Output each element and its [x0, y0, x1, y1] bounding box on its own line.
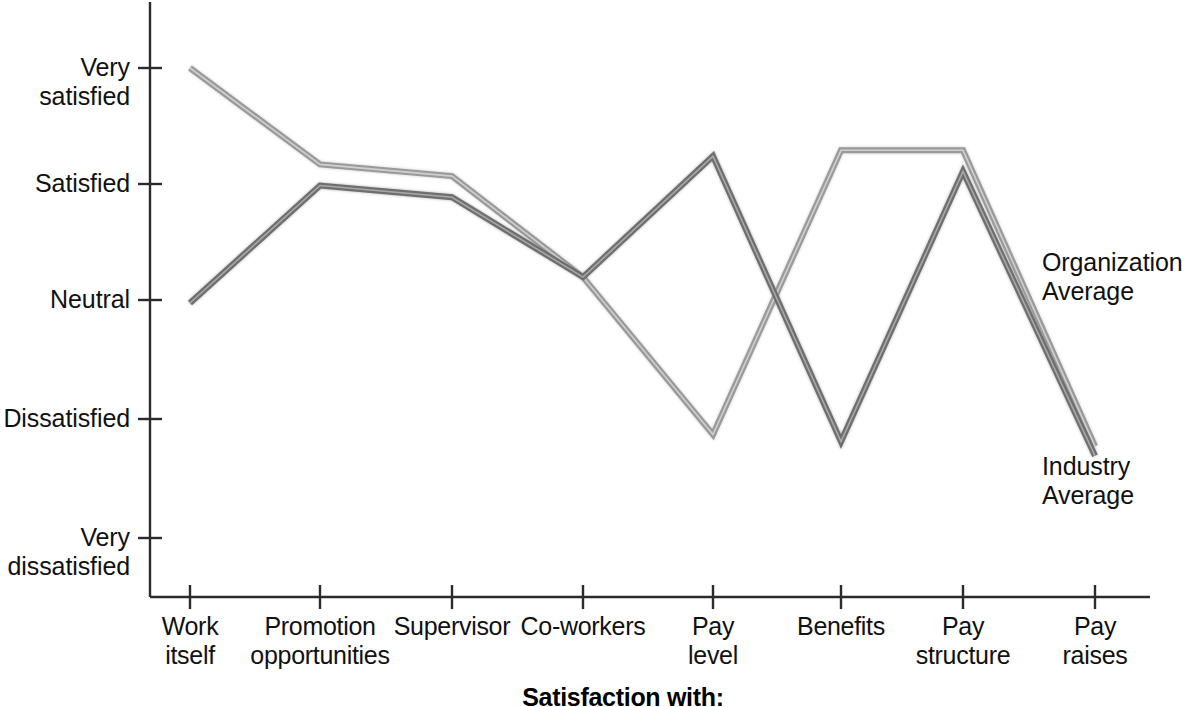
- y-tick-label-dissatisfied: Dissatisfied: [0, 404, 130, 433]
- series-line-highlight: [190, 156, 1095, 456]
- axis-lines: [150, 2, 1150, 597]
- series-label-organization-average: Organization Average: [1042, 248, 1183, 306]
- series-label-industry-average: Industry Average: [1042, 452, 1134, 510]
- y-tick-label-neutral: Neutral: [0, 285, 130, 314]
- x-tick-label-pay-level: Pay level: [653, 612, 773, 670]
- x-tick-label-pay-structure: Pay structure: [888, 612, 1038, 670]
- chart-container: Employee satisfaction survey results: [0, 0, 1197, 707]
- x-tick-label-co-workers: Co-workers: [505, 612, 661, 641]
- line-chart-plot: [0, 0, 1197, 707]
- y-tick-label-satisfied: Satisfied: [0, 169, 130, 198]
- series-line-highlight: [190, 68, 1095, 446]
- x-axis-title: Satisfaction with:: [398, 683, 848, 707]
- series-line-industry-average: [190, 156, 1095, 456]
- x-tick-label-pay-raises: Pay raises: [1028, 612, 1162, 670]
- data-series-layer: [190, 68, 1095, 456]
- y-tick-label-very-dissatisfied: Very dissatisfied: [0, 523, 130, 581]
- series-line-organization-average: [190, 68, 1095, 446]
- y-tick-label-very-satisfied: Very satisfied: [0, 53, 130, 111]
